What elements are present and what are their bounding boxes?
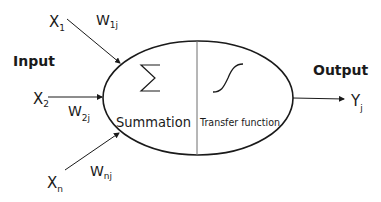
- svg-text:W1j: W1j: [96, 12, 118, 30]
- output-node: Yj: [293, 92, 363, 113]
- input-2-symbol: X: [33, 90, 43, 108]
- svg-text:W2j: W2j: [68, 103, 90, 123]
- input-1-symbol: X: [49, 13, 59, 31]
- input-node-1: X1 W1j: [49, 12, 120, 63]
- input-2-subscript: 2: [43, 99, 49, 109]
- input-1-subscript: 1: [59, 23, 65, 33]
- neuron-body: [103, 41, 293, 155]
- svg-text:X1: X1: [49, 13, 65, 33]
- weight-1-symbol: W: [96, 12, 110, 28]
- input-n-subscript: n: [57, 184, 63, 194]
- sigma-icon: [141, 65, 160, 91]
- weight-2-symbol: W: [68, 103, 82, 119]
- svg-text:X2: X2: [33, 90, 49, 109]
- transfer-function-label: Transfer function: [199, 116, 280, 128]
- output-subscript: j: [359, 103, 363, 113]
- neuron-diagram: Input Output Summation Transfer function…: [0, 0, 381, 202]
- summation-label: Summation: [116, 114, 191, 130]
- weight-1-subscript: 1j: [110, 20, 118, 30]
- input-node-2: X2 W2j: [33, 90, 102, 123]
- sigmoid-icon: [213, 64, 243, 92]
- input-label: Input: [13, 53, 55, 69]
- output-label: Output: [313, 62, 369, 78]
- weight-n-symbol: W: [90, 163, 104, 179]
- input-node-n: Xn Wnj: [47, 133, 119, 194]
- weight-2-subscript: 2j: [82, 113, 90, 123]
- svg-text:Xn: Xn: [47, 174, 63, 194]
- svg-text:Yj: Yj: [350, 92, 363, 113]
- weight-n-subscript: nj: [104, 171, 112, 181]
- output-connection: [293, 98, 344, 99]
- input-n-symbol: X: [47, 174, 57, 192]
- svg-text:Wnj: Wnj: [90, 163, 112, 181]
